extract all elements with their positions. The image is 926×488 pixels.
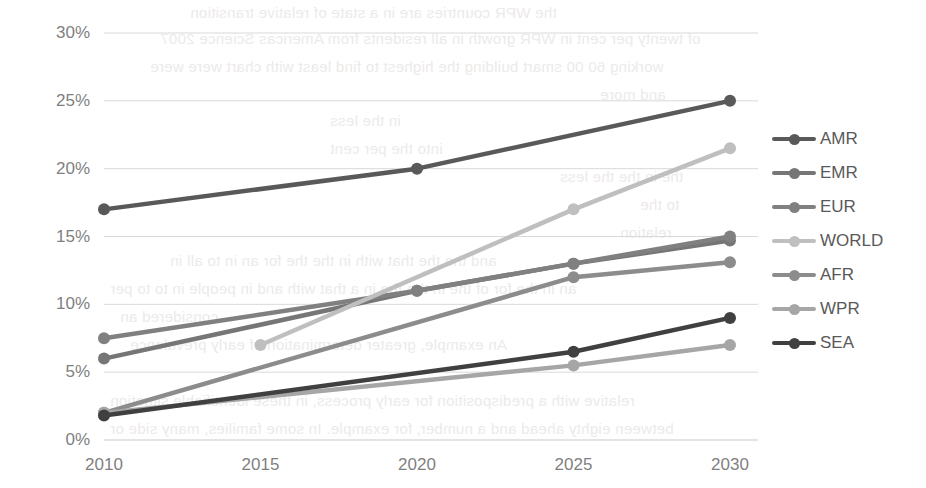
legend-marker-icon — [772, 267, 816, 283]
data-point-world — [255, 339, 267, 351]
data-point-amr — [411, 163, 423, 175]
legend-item-afr[interactable]: AFR — [772, 258, 922, 292]
series-line-amr — [104, 101, 730, 210]
legend-item-world[interactable]: WORLD — [772, 224, 922, 258]
y-axis-tick-label: 30% — [18, 23, 90, 43]
y-axis-tick-label: 10% — [18, 294, 90, 314]
legend-label: SEA — [820, 333, 854, 353]
chart-legend: AMREMREURWORLDAFRWPRSEA — [772, 122, 922, 360]
chart-page: the WPR countries are in a state of rela… — [0, 0, 926, 488]
legend-dot — [789, 338, 800, 349]
legend-item-eur[interactable]: EUR — [772, 190, 922, 224]
legend-marker-icon — [772, 301, 816, 317]
data-point-amr — [98, 203, 110, 215]
legend-dot — [789, 134, 800, 145]
data-point-world — [724, 142, 736, 154]
legend-item-sea[interactable]: SEA — [772, 326, 922, 360]
data-point-sea — [568, 346, 580, 358]
y-axis-tick-label: 15% — [18, 227, 90, 247]
legend-dot — [789, 270, 800, 281]
legend-item-wpr[interactable]: WPR — [772, 292, 922, 326]
x-axis-tick-label: 2020 — [372, 455, 462, 475]
y-axis-tick-label: 0% — [18, 430, 90, 450]
data-point-afr — [568, 271, 580, 283]
legend-label: WPR — [820, 299, 860, 319]
data-point-eur — [411, 285, 423, 297]
y-axis-tick-label: 20% — [18, 159, 90, 179]
x-axis-tick-label: 2015 — [216, 455, 306, 475]
legend-item-amr[interactable]: AMR — [772, 122, 922, 156]
series-line-sea — [104, 318, 730, 416]
data-point-world — [568, 203, 580, 215]
legend-dot — [789, 168, 800, 179]
legend-dot — [789, 202, 800, 213]
data-point-wpr — [724, 339, 736, 351]
legend-item-emr[interactable]: EMR — [772, 156, 922, 190]
legend-label: AMR — [820, 129, 858, 149]
data-point-afr — [724, 256, 736, 268]
legend-label: EUR — [820, 197, 856, 217]
data-point-sea — [724, 312, 736, 324]
legend-marker-icon — [772, 131, 816, 147]
legend-marker-icon — [772, 335, 816, 351]
legend-marker-icon — [772, 199, 816, 215]
x-axis-tick-label: 2025 — [529, 455, 619, 475]
y-axis-tick-label: 25% — [18, 91, 90, 111]
legend-label: EMR — [820, 163, 858, 183]
legend-marker-icon — [772, 233, 816, 249]
legend-label: WORLD — [820, 231, 883, 251]
x-axis-tick-label: 2010 — [59, 455, 149, 475]
legend-dot — [789, 236, 800, 247]
data-point-eur — [98, 332, 110, 344]
data-point-amr — [724, 95, 736, 107]
x-axis-tick-label: 2030 — [685, 455, 775, 475]
data-point-eur — [724, 231, 736, 243]
legend-marker-icon — [772, 165, 816, 181]
legend-label: AFR — [820, 265, 854, 285]
series-line-emr — [104, 241, 730, 359]
data-point-emr — [98, 353, 110, 365]
data-point-eur — [568, 258, 580, 270]
data-point-sea — [98, 410, 110, 422]
y-axis-tick-label: 5% — [18, 362, 90, 382]
legend-dot — [789, 304, 800, 315]
data-point-wpr — [568, 359, 580, 371]
